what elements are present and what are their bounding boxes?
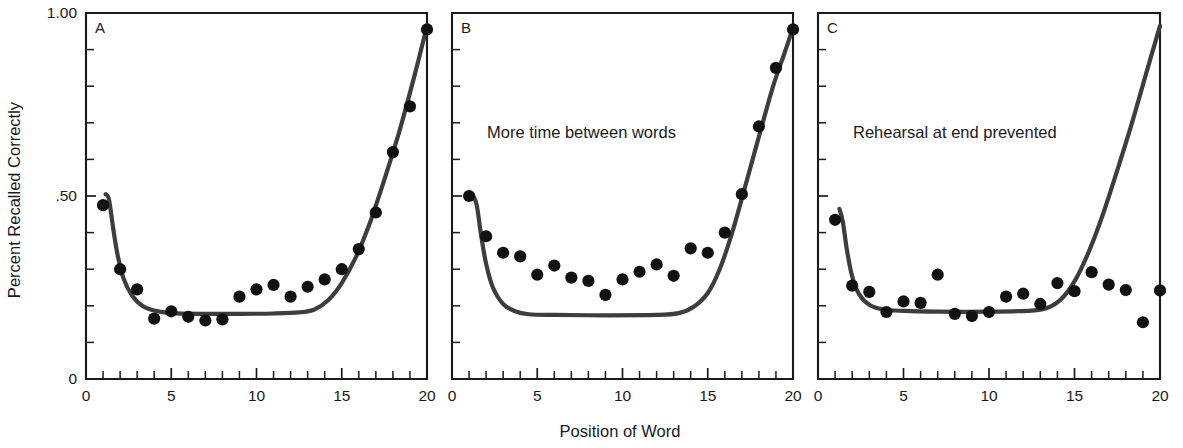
x-tick-label: 5 (167, 387, 176, 404)
data-point (480, 230, 492, 242)
data-point (370, 206, 382, 218)
data-point (1103, 278, 1115, 290)
x-axis-title: Position of Word (560, 422, 681, 440)
x-tick-label: 20 (418, 387, 436, 404)
data-point (1120, 284, 1132, 296)
data-point (1051, 277, 1063, 289)
data-point (182, 311, 194, 323)
data-point (1034, 298, 1046, 310)
x-tick-label: 5 (899, 387, 908, 404)
x-tick-label: 0 (814, 387, 823, 404)
plot-frame (86, 13, 427, 379)
data-point (285, 291, 297, 303)
data-point (1068, 285, 1080, 297)
data-point (829, 214, 841, 226)
panel-letter: A (95, 19, 105, 36)
data-point (148, 313, 160, 325)
data-point (702, 247, 714, 259)
panel-b: 05101520BMore time between words (448, 13, 802, 404)
data-point (216, 313, 228, 325)
x-tick-label: 15 (1066, 387, 1083, 404)
data-point (404, 100, 416, 112)
fit-curve (839, 26, 1160, 312)
data-point (897, 295, 909, 307)
data-point (668, 270, 680, 282)
data-point (1086, 266, 1098, 278)
y-tick-label: 0 (68, 370, 77, 387)
data-point (336, 263, 348, 275)
data-point (114, 263, 126, 275)
data-point (250, 283, 262, 295)
data-point (966, 310, 978, 322)
data-point (267, 279, 279, 291)
data-point (915, 297, 927, 309)
fit-curve (106, 26, 427, 314)
data-point (846, 280, 858, 292)
chart-svg: 051015201.00.500A05101520BMore time betw… (0, 0, 1183, 448)
panel-caption: Rehearsal at end prevented (853, 123, 1057, 141)
data-point (353, 243, 365, 255)
data-point (387, 146, 399, 158)
fit-curve (472, 28, 793, 316)
data-point (319, 273, 331, 285)
data-point (736, 188, 748, 200)
data-point (199, 314, 211, 326)
panel-a: 051015201.00.500A (47, 4, 436, 404)
data-point (1154, 284, 1166, 296)
x-tick-label: 0 (448, 387, 457, 404)
data-point (233, 291, 245, 303)
data-point (565, 272, 577, 284)
y-axis-title: Percent Recalled Correctly (5, 101, 23, 298)
data-point (463, 190, 475, 202)
data-point (616, 273, 628, 285)
data-point (421, 23, 433, 35)
data-point (548, 259, 560, 271)
data-point (863, 286, 875, 298)
x-tick-label: 10 (614, 387, 632, 404)
data-point (97, 199, 109, 211)
x-tick-label: 10 (980, 387, 998, 404)
serial-position-figure: 051015201.00.500A05101520BMore time betw… (0, 0, 1183, 448)
data-point (651, 258, 663, 270)
data-point (302, 281, 314, 293)
data-point (599, 289, 611, 301)
data-point (165, 305, 177, 317)
y-tick-label: .50 (55, 187, 77, 204)
data-point (131, 283, 143, 295)
panel-letter: C (827, 19, 838, 36)
data-point (633, 266, 645, 278)
data-point (1017, 288, 1029, 300)
x-tick-label: 0 (82, 387, 91, 404)
data-point (497, 247, 509, 259)
data-point (949, 308, 961, 320)
x-tick-label: 20 (784, 387, 802, 404)
x-tick-label: 15 (333, 387, 350, 404)
panel-caption: More time between words (487, 123, 676, 141)
data-point (1137, 316, 1149, 328)
y-tick-label: 1.00 (47, 4, 78, 21)
data-point (932, 269, 944, 281)
data-point (1000, 291, 1012, 303)
x-tick-label: 20 (1151, 387, 1169, 404)
data-point (770, 62, 782, 74)
data-point (531, 269, 543, 281)
x-tick-label: 15 (699, 387, 716, 404)
data-point (514, 250, 526, 262)
panels-layer: 051015201.00.500A05101520BMore time betw… (47, 4, 1169, 404)
data-point (983, 306, 995, 318)
data-point (582, 275, 594, 287)
x-tick-label: 5 (533, 387, 542, 404)
panel-letter: B (461, 19, 471, 36)
x-tick-label: 10 (248, 387, 266, 404)
data-point (787, 23, 799, 35)
data-point (753, 120, 765, 132)
data-point (685, 242, 697, 254)
panel-c: 05101520CRehearsal at end prevented (814, 13, 1169, 404)
data-point (880, 306, 892, 318)
data-point (719, 227, 731, 239)
